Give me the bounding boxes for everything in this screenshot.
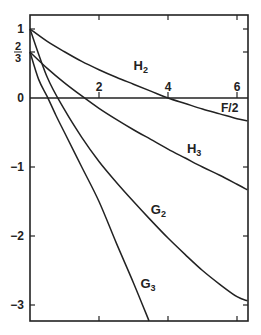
y-tick-label-num: 2	[15, 40, 21, 52]
x-axis-label: F/2	[221, 101, 239, 115]
curve-label-g3: G3	[140, 276, 155, 293]
x-tick-label: 4	[165, 80, 172, 94]
y-tick-label: −3	[10, 298, 24, 312]
chart: 2461230−1−2−3 H2H3G2G3 F/2	[0, 0, 261, 335]
curve-g3	[30, 52, 149, 321]
y-tick-label: −1	[10, 160, 24, 174]
y-tick-label: 0	[17, 91, 24, 105]
curve-label-h3: H3	[187, 141, 201, 158]
x-tick-label: 2	[96, 80, 103, 94]
curve-label-h2: H2	[134, 58, 148, 75]
y-tick-label: 1	[17, 22, 24, 36]
x-tick-label: 6	[234, 80, 241, 94]
curve-label-g2: G2	[151, 202, 166, 219]
y-tick-label-den: 3	[15, 52, 21, 64]
y-tick-label: −2	[10, 229, 24, 243]
